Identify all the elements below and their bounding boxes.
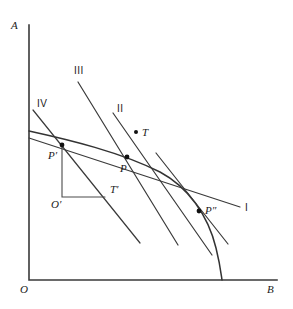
line-label-III: III <box>74 66 84 76</box>
y-axis-label: A <box>11 20 18 31</box>
point-label-P-prime: P′ <box>48 150 57 161</box>
diagram-canvas <box>0 0 293 309</box>
tangent-line-at-P-double-prime <box>156 153 228 244</box>
right-angle-marker <box>62 145 105 197</box>
point-P-double-prime-dot <box>197 209 202 214</box>
point-P-prime-dot <box>60 143 65 148</box>
tangent-line-I <box>29 138 240 207</box>
axis-lines <box>29 25 277 280</box>
point-label-P-double-prime: P″ <box>205 205 216 216</box>
point-P-dot <box>125 155 130 160</box>
line-label-II: II <box>117 104 124 114</box>
point-label-O-prime: O′ <box>51 199 61 210</box>
tangent-line-IV <box>33 110 140 243</box>
economics-diagram-figure: A B O P′ P P″ T O′ T′ I II III IV <box>0 0 293 309</box>
point-label-P: P <box>120 163 127 174</box>
line-label-IV: IV <box>37 99 47 109</box>
tangent-line-II <box>113 113 212 255</box>
line-label-I: I <box>245 203 248 213</box>
point-label-T-prime: T′ <box>110 184 119 195</box>
x-axis-label: B <box>267 284 274 295</box>
origin-label: O <box>20 284 28 295</box>
point-label-T: T <box>142 127 148 138</box>
tangent-line-III <box>78 82 178 245</box>
point-T-dot <box>134 130 138 134</box>
